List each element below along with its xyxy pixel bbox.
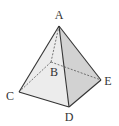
vertex-label-c: C: [6, 89, 14, 103]
vertex-label-e: E: [104, 74, 111, 88]
pyramid-diagram: A B C D E: [0, 0, 119, 126]
vertex-label-d: D: [65, 110, 74, 124]
vertex-label-a: A: [55, 8, 64, 22]
vertex-label-b: B: [50, 65, 58, 79]
